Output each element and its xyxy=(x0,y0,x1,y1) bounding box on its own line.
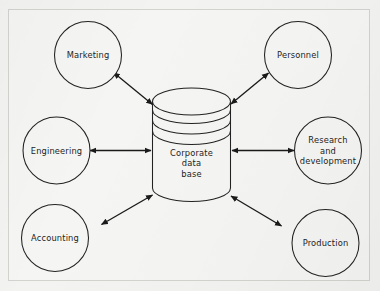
connector-production-database[interactable] xyxy=(231,196,282,226)
node-marketing[interactable]: Marketing xyxy=(55,22,122,89)
connector-marketing-database[interactable] xyxy=(114,73,153,105)
connector-accounting-database[interactable] xyxy=(102,195,153,225)
corporate-database-cylinder[interactable]: Corporate data base xyxy=(153,88,231,202)
engineering-label: Engineering xyxy=(31,146,82,156)
production-label: Production xyxy=(303,238,349,248)
database-label-line-2: data xyxy=(182,158,201,168)
node-personnel[interactable]: Personnel xyxy=(265,22,332,89)
diagram-svg: Corporate data base Marketing Personnel … xyxy=(0,0,380,291)
node-research-and-development[interactable]: Research and development xyxy=(295,117,362,184)
accounting-label: Accounting xyxy=(31,233,79,243)
research-label-line-2: and xyxy=(320,146,336,156)
connector-personnel-database[interactable] xyxy=(231,73,269,104)
research-label-line-3: development xyxy=(300,156,357,166)
database-label-line-3: base xyxy=(181,169,201,179)
database-label-line-1: Corporate xyxy=(170,148,213,158)
node-accounting[interactable]: Accounting xyxy=(22,205,89,272)
cylinder-top-ellipse xyxy=(153,88,231,115)
node-production[interactable]: Production xyxy=(292,210,359,277)
node-engineering[interactable]: Engineering xyxy=(23,117,90,184)
research-label-line-1: Research xyxy=(308,135,347,145)
figure-canvas: Corporate data base Marketing Personnel … xyxy=(0,0,380,291)
marketing-label: Marketing xyxy=(67,50,110,60)
personnel-label: Personnel xyxy=(277,50,319,60)
